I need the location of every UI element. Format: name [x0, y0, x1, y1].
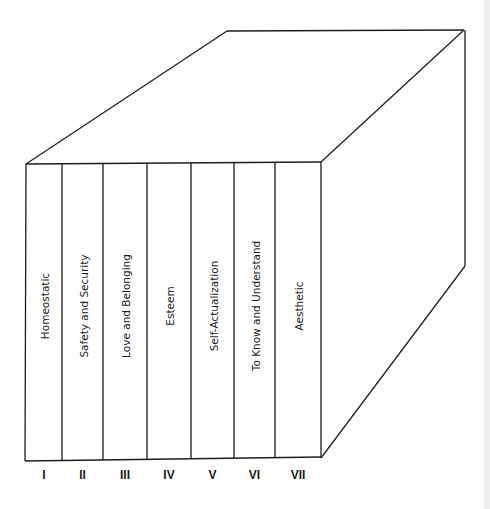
column-label: Homeostatic — [39, 273, 51, 339]
column-numerals: IIIIIIIVVVIVII — [42, 468, 305, 482]
box-diagram: HomeostaticSafety and SecurityLove and B… — [0, 0, 490, 509]
column-numeral: I — [42, 468, 45, 482]
column-label: Self-Actualization — [208, 261, 220, 352]
column-numeral: IV — [163, 468, 174, 482]
column-numeral: III — [120, 468, 130, 482]
column-numeral: II — [79, 468, 86, 482]
column-label: Safety and Security — [78, 254, 90, 357]
column-label: Aesthetic — [293, 281, 305, 330]
column-label: Esteem — [164, 286, 176, 325]
front-bottom-edge — [25, 457, 321, 461]
column-label: To Know and Understand — [250, 241, 262, 373]
column-numeral: V — [208, 468, 216, 482]
column-numeral: VII — [291, 468, 306, 482]
column-labels: HomeostaticSafety and SecurityLove and B… — [39, 241, 305, 373]
column-label: Love and Belonging — [120, 254, 132, 358]
front-left-edge — [25, 164, 26, 461]
column-numeral: VI — [249, 468, 260, 482]
